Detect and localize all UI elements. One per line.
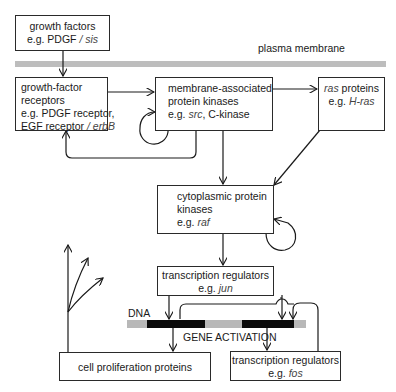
node-text: membrane-associated bbox=[168, 82, 272, 95]
node-text: receptors bbox=[21, 94, 107, 107]
gene-name: fos bbox=[289, 367, 303, 379]
plasma-membrane-label: plasma membrane bbox=[258, 42, 345, 54]
node-text: growth factors bbox=[16, 20, 109, 33]
node-growth-factors: growth factors e.g. PDGF / sis bbox=[15, 15, 110, 51]
dna-bar bbox=[127, 320, 306, 328]
gene-name: / erbB bbox=[87, 120, 115, 132]
node-text: kinases bbox=[177, 203, 273, 216]
node-jun: transcription regulators e.g. jun bbox=[157, 266, 274, 296]
node-text: transcription regulators bbox=[231, 354, 340, 367]
node-text: proteins bbox=[339, 82, 379, 94]
gene-name: ras bbox=[324, 82, 339, 94]
node-text: e.g. bbox=[168, 108, 188, 120]
node-text: e.g. bbox=[328, 95, 348, 107]
node-receptors: growth-factor receptors e.g. PDGF recept… bbox=[15, 77, 108, 131]
plasma-membrane-bar bbox=[15, 61, 386, 67]
node-text: transcription regulators bbox=[158, 269, 273, 282]
gene-name: jun bbox=[219, 282, 233, 294]
node-text: e.g. bbox=[198, 282, 218, 294]
node-text: growth-factor bbox=[21, 81, 107, 94]
gene-name: H-ras bbox=[349, 95, 375, 107]
node-fos: transcription regulators e.g. fos bbox=[230, 351, 341, 381]
node-cell-proliferation: cell proliferation proteins bbox=[59, 352, 211, 381]
node-text: protein kinases bbox=[168, 95, 272, 108]
node-text: e.g. PDGF bbox=[27, 33, 80, 45]
node-text: , C-kinase bbox=[202, 108, 249, 120]
node-text: e.g. bbox=[268, 367, 288, 379]
node-ras: ras proteins e.g. H-ras bbox=[318, 77, 385, 131]
gene-activation-label: GENE ACTIVATION bbox=[183, 331, 277, 343]
dna-label: DNA bbox=[128, 307, 150, 319]
node-membrane-kinases: membrane-associated protein kinases e.g.… bbox=[155, 77, 273, 131]
node-text: cell proliferation proteins bbox=[60, 361, 210, 374]
node-text: cytoplasmic protein bbox=[177, 190, 273, 203]
gene-name: src bbox=[188, 108, 202, 120]
node-text: e.g. PDGF receptor, bbox=[21, 107, 107, 120]
node-text: EGF receptor bbox=[21, 120, 87, 132]
node-text: e.g. bbox=[177, 216, 197, 228]
gene-name: raf bbox=[197, 216, 209, 228]
node-cytoplasmic-kinases: cytoplasmic protein kinases e.g. raf bbox=[157, 185, 274, 234]
gene-name: / sis bbox=[79, 33, 98, 45]
